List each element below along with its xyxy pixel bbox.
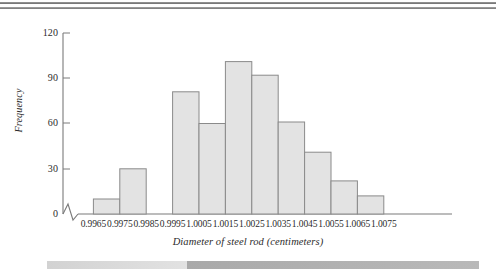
x-tick-label-11: 1.0075: [362, 219, 406, 229]
bar-0.9995: [173, 92, 199, 214]
bar-1.0045: [305, 152, 331, 214]
bar-1.0015: [225, 62, 251, 214]
footer-band-right: [187, 261, 479, 269]
figure-page: 120 90 60 30 0 0.9965 0.9975 0.9985 0.99…: [0, 0, 496, 275]
x-axis-title: Diameter of steel rod (centimeters): [0, 236, 496, 247]
bar-0.9975: [120, 169, 146, 214]
bar-1.0035: [278, 122, 304, 214]
bar-1.0065: [357, 196, 383, 214]
bar-series: [93, 62, 383, 214]
y-tick-label-90: 90: [24, 73, 58, 83]
y-axis-title: Frequency: [13, 71, 24, 151]
bar-0.9965: [93, 199, 119, 214]
axis-break-icon: [63, 204, 78, 220]
footer-band-left: [47, 261, 187, 269]
bar-1.0055: [331, 181, 357, 214]
histogram-chart: 120 90 60 30 0 0.9965 0.9975 0.9985 0.99…: [0, 0, 496, 258]
y-tick-label-0: 0: [24, 209, 58, 219]
y-tick-label-60: 60: [24, 118, 58, 128]
bar-1.0025: [252, 75, 278, 214]
y-tick-label-30: 30: [24, 164, 58, 174]
bar-1.0005: [199, 124, 225, 215]
y-tick-label-120: 120: [24, 28, 58, 38]
